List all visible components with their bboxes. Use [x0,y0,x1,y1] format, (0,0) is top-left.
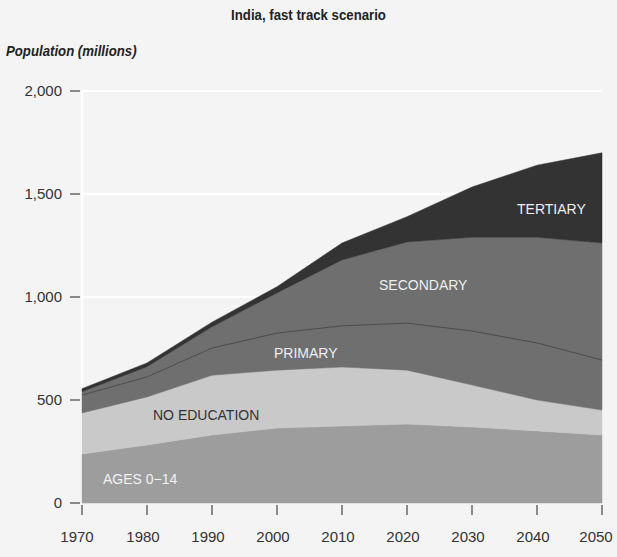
series-label-ages-0-14: AGES 0−14 [103,471,178,487]
chart-plot: 0 500 1,000 1,500 2,000 1970 1980 1990 2… [0,0,617,557]
y-tick-label: 2,000 [24,82,62,99]
x-tick-label: 1980 [126,528,159,545]
x-tick-label: 1990 [191,528,224,545]
series-label-no-education: NO EDUCATION [153,407,259,423]
x-axis [82,505,602,515]
x-tick-label: 2020 [386,528,419,545]
x-tick-label: 2010 [321,528,354,545]
y-tick-label: 500 [37,391,62,408]
series-label-primary: PRIMARY [274,345,338,361]
series-label-tertiary: TERTIARY [517,201,586,217]
y-tick-label: 1,000 [24,288,62,305]
x-tick-label: 2030 [451,528,484,545]
y-axis [70,91,80,503]
x-tick-label: 2040 [516,528,549,545]
series-label-secondary: SECONDARY [379,277,468,293]
x-tick-label: 2000 [256,528,289,545]
y-tick-label: 0 [54,494,62,511]
x-tick-label: 2050 [579,528,612,545]
x-tick-label: 1970 [60,528,93,545]
y-tick-label: 1,500 [24,185,62,202]
